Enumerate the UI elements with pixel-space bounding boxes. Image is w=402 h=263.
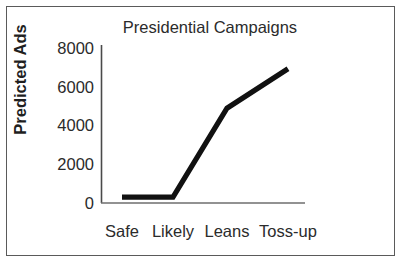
chart-title: Presidential Campaigns [100,18,320,37]
chart-figure: Presidential Campaigns Predicted Ads 0 2… [0,0,402,263]
plot-svg [101,45,305,205]
plot-area [101,45,305,205]
data-series-line [122,69,288,197]
y-tick-label-2000: 2000 [32,155,94,174]
x-tick-label-toss-up: Toss-up [259,222,317,241]
y-tick-label-6000: 6000 [32,78,94,97]
y-tick-label-0: 0 [32,194,94,213]
y-tick-label-4000: 4000 [32,116,94,135]
x-tick-label-safe: Safe [105,222,139,241]
x-tick-label-leans: Leans [205,222,250,241]
x-tick-label-likely: Likely [152,222,194,241]
y-tick-label-8000: 8000 [32,39,94,58]
x-axis-tick-labels: Safe Likely Leans Toss-up [0,222,402,248]
y-axis-label: Predicted Ads [11,15,30,145]
